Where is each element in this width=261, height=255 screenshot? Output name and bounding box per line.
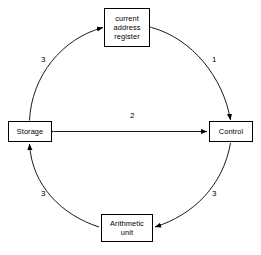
cycle-diagram: current address register Storage Control… [0, 0, 261, 255]
edge-label-storage-control-link: 2 [130, 111, 134, 120]
node-label-line: Arithmetic [110, 219, 144, 228]
node-label-line: Control [219, 127, 244, 136]
edge-control-to-arithmetic [155, 143, 231, 227]
edge-label-storage-to-register: 3 [41, 55, 45, 64]
edge-label-arithmetic-to-storage: 3 [41, 189, 45, 198]
node-current-address-register: current address register [104, 8, 150, 47]
edge-label-control-to-arithmetic: 3 [212, 189, 216, 198]
node-arithmetic-unit: Arithmetic unit [101, 214, 153, 242]
node-storage: Storage [8, 121, 52, 142]
node-label-line: Storage [17, 127, 44, 136]
node-label-line: unit [121, 228, 133, 237]
edge-storage-to-register [30, 28, 104, 121]
edge-arithmetic-to-storage [30, 144, 100, 227]
edge-register-to-control [152, 28, 231, 121]
node-label-line: current [115, 14, 139, 23]
node-control: Control [209, 121, 253, 142]
node-label-line: register [114, 32, 139, 41]
node-label-line: address [114, 23, 141, 32]
edge-label-register-to-control: 1 [212, 55, 216, 64]
